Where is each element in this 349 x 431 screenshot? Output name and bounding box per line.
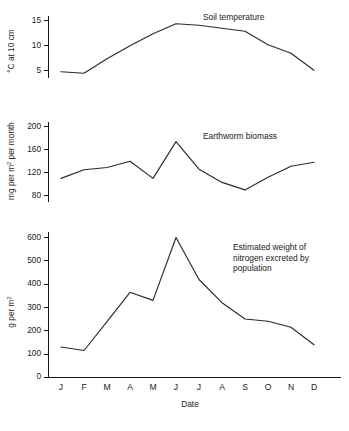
y-axis-ticks	[44, 127, 49, 196]
y-tick-label: 200	[27, 121, 41, 131]
x-tick-label-month: N	[288, 382, 294, 392]
y-tick-label: 80	[32, 190, 42, 200]
x-tick-label-month: F	[81, 382, 86, 392]
x-tick-label-month: O	[265, 382, 272, 392]
x-tick-label-month: S	[242, 382, 248, 392]
annotation-line: nitrogen excreted by	[233, 253, 310, 263]
x-tick-label-month: J	[59, 382, 63, 392]
y-axis-tick-labels: 600 500 400 300 200 100 0	[27, 232, 41, 382]
x-axis-title: Date	[181, 399, 199, 409]
y-axis-title: °C at 10 cm	[6, 29, 16, 73]
y-tick-label: 0	[36, 371, 41, 381]
panel-annotation: Soil temperature	[203, 12, 265, 22]
figure-container: 15 10 5 °C at 10 cm Soil temperature	[0, 0, 349, 431]
chart-panel-soil-temperature: 15 10 5 °C at 10 cm Soil temperature	[0, 0, 349, 104]
panel-annotation: Estimated weight of nitrogen excreted by…	[233, 242, 310, 273]
nitrogen-excreted-plot: 600 500 400 300 200 100 0 g per m2 J F M…	[0, 220, 349, 431]
y-axis-title: g per m2	[6, 296, 16, 327]
x-tick-label-month: M	[103, 382, 110, 392]
earthworm-biomass-plot: 200 160 120 80 mg per m2 per month Earth…	[0, 104, 349, 220]
y-tick-label: 120	[27, 167, 41, 177]
annotation-line: Estimated weight of	[233, 242, 307, 252]
x-tick-label-month: J	[197, 382, 201, 392]
y-axis-tick-labels: 15 10 5	[32, 15, 42, 75]
y-axis-title: mg per m2 per month	[6, 122, 16, 200]
x-tick-label-month: M	[149, 382, 156, 392]
chart-panel-earthworm-biomass: 200 160 120 80 mg per m2 per month Earth…	[0, 104, 349, 220]
y-tick-label: 100	[27, 348, 41, 358]
data-series-line	[61, 24, 314, 73]
y-tick-label: 600	[27, 232, 41, 242]
x-tick-label-month: J	[174, 382, 178, 392]
y-tick-label: 5	[36, 65, 41, 75]
y-tick-label: 160	[27, 144, 41, 154]
y-tick-label: 500	[27, 255, 41, 265]
y-axis-ticks	[44, 238, 49, 378]
annotation-line: population	[233, 263, 272, 273]
y-tick-label: 200	[27, 325, 41, 335]
data-series-line	[61, 142, 314, 190]
soil-temperature-plot: 15 10 5 °C at 10 cm Soil temperature	[0, 0, 349, 104]
y-axis-tick-labels: 200 160 120 80	[27, 121, 41, 200]
panel-annotation: Earthworm biomass	[203, 131, 277, 141]
y-tick-label: 300	[27, 302, 41, 312]
y-tick-label: 10	[32, 40, 42, 50]
chart-panel-nitrogen-excreted: 600 500 400 300 200 100 0 g per m2 J F M…	[0, 220, 349, 431]
y-tick-label: 400	[27, 278, 41, 288]
x-tick-label-month: A	[127, 382, 133, 392]
x-axis-tick-labels: J F M A M J J A S O N D	[59, 382, 317, 392]
y-axis-ticks	[44, 21, 49, 71]
x-tick-label-month: D	[311, 382, 317, 392]
x-tick-label-month: A	[219, 382, 225, 392]
y-tick-label: 15	[32, 15, 42, 25]
